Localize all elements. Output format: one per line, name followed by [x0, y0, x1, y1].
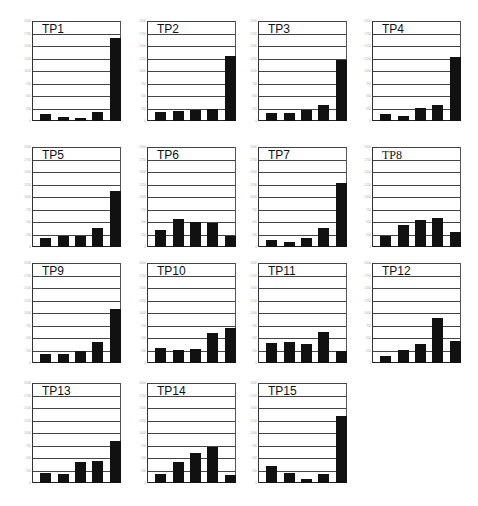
y-tick-label: 750 [132, 208, 146, 212]
chart-panel-tp2: 025050075010001250150017502000TP2 [129, 15, 241, 133]
bar [301, 344, 312, 363]
plot-area: 025050075010001250150017502000 [32, 383, 121, 483]
gridline [259, 84, 346, 85]
y-tick-label: 2000 [357, 145, 371, 149]
y-tick-label: 1750 [243, 274, 257, 278]
bar [190, 349, 201, 363]
y-tick-label: 0 [243, 361, 257, 365]
bar [318, 228, 329, 247]
gridline [33, 408, 120, 409]
bar [155, 230, 166, 247]
y-tick-label: 250 [357, 233, 371, 237]
gridline [373, 313, 460, 314]
gridline [373, 185, 460, 186]
y-tick-label: 1750 [243, 394, 257, 398]
y-tick-label: 1750 [17, 158, 31, 162]
gridline [259, 96, 346, 97]
y-tick-label: 250 [357, 107, 371, 111]
y-tick-label: 1000 [132, 311, 146, 315]
bar [58, 354, 69, 363]
bar [415, 220, 426, 247]
bar [450, 341, 461, 363]
y-tick-label: 750 [243, 208, 257, 212]
plot-area: 025050075010001250150017502000 [258, 383, 347, 483]
bar [58, 474, 69, 483]
gridline [33, 301, 120, 302]
y-tick-label: 1750 [132, 158, 146, 162]
bar [225, 475, 236, 484]
bar [110, 191, 121, 248]
y-tick-label: 500 [17, 220, 31, 224]
y-tick-label: 1500 [132, 44, 146, 48]
y-tick-label: 500 [243, 456, 257, 460]
bar [207, 447, 218, 483]
bar [432, 318, 443, 363]
gridline [373, 288, 460, 289]
y-tick-label: 750 [17, 208, 31, 212]
y-tick-label: 500 [357, 220, 371, 224]
y-tick-label: 250 [17, 349, 31, 353]
bar [92, 228, 103, 247]
bar [266, 113, 277, 121]
y-tick-label: 1000 [357, 311, 371, 315]
y-tick-label: 1250 [243, 299, 257, 303]
y-tick-label: 1250 [17, 419, 31, 423]
gridline [33, 222, 120, 223]
bar [380, 236, 391, 247]
plot-area: 025050075010001250150017502000 [32, 147, 121, 247]
gridline [148, 71, 235, 72]
bar [380, 356, 391, 363]
gridline [148, 172, 235, 173]
y-tick-label: 2000 [243, 19, 257, 23]
bar [75, 236, 86, 248]
bar [398, 225, 409, 248]
y-tick-label: 750 [357, 324, 371, 328]
gridline [373, 59, 460, 60]
gridline [373, 326, 460, 327]
gridline [259, 235, 346, 236]
gridline [148, 433, 235, 434]
y-tick-label: 2000 [243, 145, 257, 149]
y-tick-label: 750 [132, 82, 146, 86]
y-tick-label: 250 [132, 469, 146, 473]
y-tick-label: 2000 [243, 261, 257, 265]
gridline [33, 96, 120, 97]
gridline [33, 84, 120, 85]
chart-title: TP11 [268, 264, 296, 278]
gridline [259, 446, 346, 447]
chart-title: TP10 [157, 264, 186, 278]
y-tick-label: 1500 [132, 170, 146, 174]
y-tick-label: 1250 [357, 183, 371, 187]
y-tick-label: 750 [17, 82, 31, 86]
gridline [259, 172, 346, 173]
y-tick-label: 1000 [132, 195, 146, 199]
chart-panel-tp6: 025050075010001250150017502000TP6 [129, 141, 241, 259]
gridline [148, 338, 235, 339]
y-tick-label: 250 [357, 349, 371, 353]
chart-panel-tp10: 025050075010001250150017502000TP10 [129, 257, 241, 375]
y-tick-label: 0 [243, 481, 257, 485]
y-tick-label: 1250 [17, 183, 31, 187]
y-tick-label: 1750 [357, 32, 371, 36]
gridline [373, 71, 460, 72]
bar [40, 114, 51, 121]
bar [173, 111, 184, 121]
gridline [148, 421, 235, 422]
y-tick-label: 1250 [132, 183, 146, 187]
y-tick-label: 500 [17, 336, 31, 340]
gridline [33, 421, 120, 422]
gridline [259, 458, 346, 459]
y-tick-label: 750 [17, 444, 31, 448]
y-tick-label: 1500 [243, 286, 257, 290]
gridline [259, 222, 346, 223]
bar [40, 473, 51, 483]
y-tick-label: 0 [132, 361, 146, 365]
y-tick-label: 250 [132, 349, 146, 353]
y-tick-label: 0 [243, 245, 257, 249]
y-tick-label: 0 [243, 119, 257, 123]
bar [40, 354, 51, 363]
gridline [259, 301, 346, 302]
plot-area: 025050075010001250150017502000 [372, 263, 461, 363]
chart-panel-tp11: 025050075010001250150017502000TP11 [240, 257, 352, 375]
y-tick-label: 1000 [243, 195, 257, 199]
